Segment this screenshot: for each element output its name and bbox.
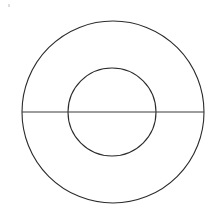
scan-speck (8, 4, 10, 7)
concentric-circles-diagram (0, 0, 214, 222)
figure-canvas (0, 0, 214, 222)
